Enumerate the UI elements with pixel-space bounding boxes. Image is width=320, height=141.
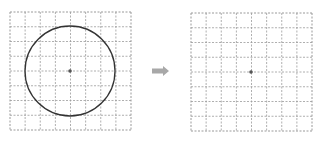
right-grid-panel bbox=[191, 13, 312, 131]
diagram-canvas bbox=[0, 0, 320, 141]
arrow-right-icon bbox=[152, 66, 169, 76]
arrow-shape bbox=[152, 66, 169, 76]
center-point bbox=[68, 69, 72, 73]
left-grid-panel bbox=[10, 12, 131, 130]
center-point bbox=[249, 70, 253, 74]
